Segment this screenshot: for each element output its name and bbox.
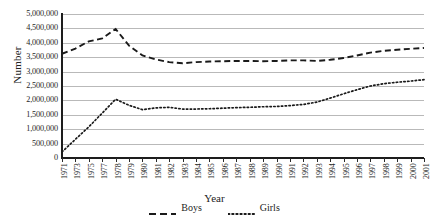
x-tick-mark: [290, 158, 291, 162]
x-tick-mark: [277, 158, 278, 162]
x-tick-mark: [384, 158, 385, 162]
y-tick-label: 3,000,000: [14, 68, 58, 76]
x-tick-label: 1989: [262, 163, 270, 179]
x-tick-label: 1996: [356, 163, 364, 179]
y-axis-tick-labels: 5,000,0004,500,0004,000,0003,500,0003,00…: [14, 8, 58, 158]
x-tick-label: 1982: [168, 163, 176, 179]
y-tick-label: 1,500,000: [14, 111, 58, 119]
x-tick-mark: [102, 158, 103, 162]
x-tick-mark: [397, 158, 398, 162]
x-tick-label: 1992: [302, 163, 310, 179]
x-tick-label: 1993: [316, 163, 324, 179]
x-tick-label: 1977: [101, 163, 109, 179]
x-tick-label: 1973: [74, 163, 82, 179]
legend-swatch-dashed-icon: [149, 204, 176, 212]
x-tick-label: 1990: [276, 163, 284, 179]
x-tick-mark: [183, 158, 184, 162]
y-tick-label: 4,500,000: [14, 24, 58, 32]
x-tick-label: 1980: [141, 163, 149, 179]
y-tick-label: 4,000,000: [14, 39, 58, 47]
legend-item-girls[interactable]: Girls: [228, 202, 280, 213]
x-tick-label: 2000: [410, 163, 418, 179]
x-tick-mark: [250, 158, 251, 162]
series-line-boys: [62, 29, 424, 63]
x-tick-label: 1984: [195, 163, 203, 179]
x-tick-label: 1979: [128, 163, 136, 179]
x-tick-mark: [116, 158, 117, 162]
y-tick-label: 500,000: [14, 140, 58, 148]
x-tick-mark: [357, 158, 358, 162]
legend-label: Boys: [181, 202, 202, 213]
x-tick-label: 1986: [222, 163, 230, 179]
x-tick-mark: [223, 158, 224, 162]
plot-area: [62, 14, 424, 158]
x-tick-mark: [303, 158, 304, 162]
x-tick-label: 1991: [289, 163, 297, 179]
series-line-girls: [62, 80, 424, 152]
x-tick-label: 1985: [208, 163, 216, 179]
x-tick-label: 1988: [249, 163, 257, 179]
x-tick-label: 1998: [383, 163, 391, 179]
x-tick-label: 1981: [155, 163, 163, 179]
legend-label: Girls: [260, 202, 280, 213]
chart-legend: BoysGirls: [0, 202, 429, 213]
y-tick-label: 2,000,000: [14, 96, 58, 104]
y-tick-label: 5,000,000: [14, 10, 58, 18]
x-tick-mark: [89, 158, 90, 162]
x-tick-mark: [370, 158, 371, 162]
y-tick-label: 1,000,000: [14, 125, 58, 133]
y-tick-label: 3,500,000: [14, 53, 58, 61]
x-tick-mark: [263, 158, 264, 162]
x-tick-mark: [424, 158, 425, 162]
legend-item-boys[interactable]: Boys: [149, 202, 202, 213]
x-tick-label: 1999: [396, 163, 404, 179]
x-tick-mark: [196, 158, 197, 162]
x-tick-label: 1983: [182, 163, 190, 179]
x-tick-label: 1971: [61, 163, 69, 179]
x-tick-mark: [129, 158, 130, 162]
x-tick-label: 1987: [235, 163, 243, 179]
y-axis-line: [61, 13, 63, 159]
x-tick-label: 1975: [88, 163, 96, 179]
x-tick-mark: [236, 158, 237, 162]
x-tick-mark: [344, 158, 345, 162]
x-tick-label: 1995: [343, 163, 351, 179]
x-tick-mark: [142, 158, 143, 162]
x-tick-label: 1978: [115, 163, 123, 179]
x-tick-label: 1994: [329, 163, 337, 179]
x-tick-label: 1997: [369, 163, 377, 179]
y-tick-label: 0: [14, 154, 58, 162]
x-tick-mark: [75, 158, 76, 162]
y-tick-label: 2,500,000: [14, 82, 58, 90]
legend-swatch-dotted-icon: [228, 204, 255, 212]
x-tick-mark: [156, 158, 157, 162]
x-tick-label: 2001: [423, 163, 431, 179]
x-tick-mark: [209, 158, 210, 162]
x-tick-mark: [330, 158, 331, 162]
x-axis-tick-labels: 1971197319751977197819791980198119821983…: [62, 163, 424, 191]
x-tick-mark: [411, 158, 412, 162]
series-lines: [62, 14, 424, 158]
x-tick-mark: [317, 158, 318, 162]
x-tick-mark: [62, 158, 63, 162]
x-tick-mark: [169, 158, 170, 162]
